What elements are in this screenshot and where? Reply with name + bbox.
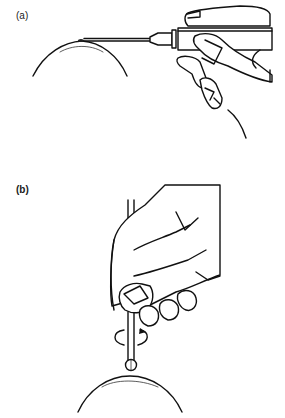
rotation-arrow-icon xyxy=(115,328,147,345)
panel-b: (b) xyxy=(0,180,285,418)
panel-a: (a) xyxy=(0,0,285,180)
burr-illustration xyxy=(0,180,285,418)
needle-illustration xyxy=(0,0,285,180)
ring-finger xyxy=(200,78,222,109)
needle xyxy=(84,39,150,42)
needle-hub xyxy=(150,33,172,45)
index-finger xyxy=(185,6,270,26)
lesion xyxy=(78,39,84,42)
